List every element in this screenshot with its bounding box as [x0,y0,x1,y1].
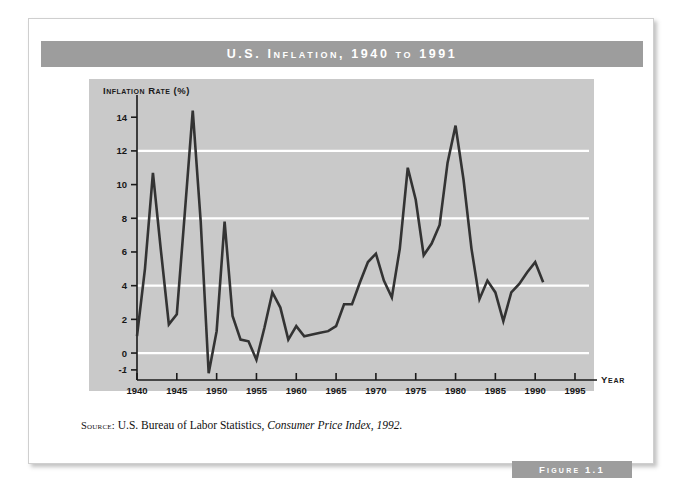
x-tick-label: 1990 [525,385,546,396]
x-tick-label: 1950 [206,385,227,396]
y-tick-label: 12 [116,145,127,156]
source-text: U.S. Bureau of Labor Statistics, [118,419,265,431]
plot-wrapper: Inflation Rate (%) -102468101214 1940194… [89,79,594,409]
x-tick-label: 1980 [445,385,466,396]
y-axis: -102468101214 [116,95,137,380]
y-tick-label: 8 [122,213,127,224]
chart-title: U.S. Inflation, 1940 to 1991 [227,47,458,61]
y-tick-label: 2 [122,314,127,325]
x-tick-label: 1945 [166,385,188,396]
figure-card: U.S. Inflation, 1940 to 1991 Inflation R… [28,18,654,464]
y-tick-label: 10 [116,179,127,190]
figure-number-banner: Figure 1.1 [512,461,632,478]
figure-number-label: Figure 1.1 [539,464,605,475]
chart-title-band: U.S. Inflation, 1940 to 1991 [41,41,643,67]
y-tick-label: -1 [119,364,127,375]
inflation-line-chart: -102468101214 19401945195019551960196519… [89,79,594,409]
x-axis: 1940194519501955196019651970197519801985… [126,373,597,396]
x-tick-label: 1975 [405,385,427,396]
source-note: Source: U.S. Bureau of Labor Statistics,… [81,419,402,431]
y-tick-label: 14 [116,112,127,123]
x-tick-label: 1960 [286,385,307,396]
y-tick-label: 6 [122,246,127,257]
source-prefix: Source: [81,420,115,431]
x-tick-label: 1955 [246,385,268,396]
x-tick-label: 1985 [485,385,507,396]
x-tick-label: 1940 [126,385,147,396]
x-tick-label: 1965 [326,385,348,396]
x-tick-label: 1970 [365,385,386,396]
x-axis-title: Year [601,374,625,385]
y-tick-label: 0 [122,348,127,359]
y-tick-label: 4 [122,280,128,291]
figure-root: U.S. Inflation, 1940 to 1991 Inflation R… [0,0,674,484]
x-tick-label: 1995 [564,385,586,396]
source-italic-text: Consumer Price Index, 1992. [267,419,402,431]
